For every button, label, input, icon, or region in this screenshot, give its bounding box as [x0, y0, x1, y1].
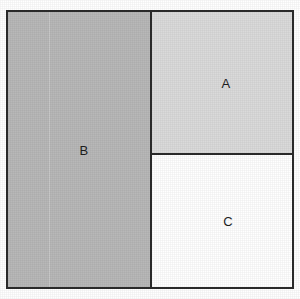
region-b-seam-line — [49, 12, 50, 287]
region-a-label: A — [222, 77, 231, 90]
region-b[interactable]: B — [8, 12, 152, 287]
diagram-canvas: B A C — [0, 0, 300, 299]
region-b-label: B — [80, 144, 89, 157]
region-c[interactable]: C — [152, 155, 292, 287]
region-a[interactable]: A — [152, 12, 292, 155]
region-c-label: C — [223, 215, 233, 228]
figure-outer-frame: B A C — [6, 10, 294, 289]
